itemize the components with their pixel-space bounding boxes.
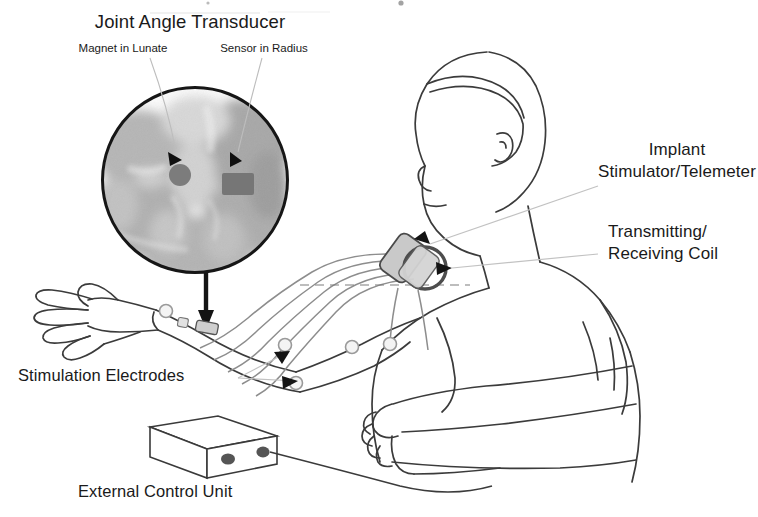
magnet-in-lunate-marker: [169, 164, 191, 186]
label-magnet-in-lunate: Magnet in Lunate: [58, 42, 188, 56]
label-implant-line2: Stimulator/Telemeter: [596, 162, 758, 182]
label-external-control-unit: External Control Unit: [78, 482, 318, 501]
radiograph-inset: [88, 85, 292, 280]
control-knob: [256, 447, 269, 458]
label-coil-line1: Transmitting/: [608, 222, 758, 242]
label-coil-line2: Receiving Coil: [608, 244, 758, 264]
control-knob: [221, 453, 235, 464]
label-stimulation-electrodes: Stimulation Electrodes: [18, 366, 248, 385]
stimulation-electrode: [160, 305, 173, 318]
stimulation-electrode: [384, 338, 397, 351]
right-callout-leaders: [430, 186, 598, 268]
stimulation-electrode: [346, 341, 359, 354]
external-control-unit: [150, 416, 492, 492]
implant-assembly: [377, 231, 446, 291]
label-sensor-in-radius: Sensor in Radius: [200, 42, 328, 56]
label-implant-line1: Implant: [600, 140, 754, 160]
stimulation-electrode: [279, 339, 292, 352]
sensor-in-radius-marker: [222, 173, 254, 195]
page-title: Joint Angle Transducer: [60, 11, 320, 33]
